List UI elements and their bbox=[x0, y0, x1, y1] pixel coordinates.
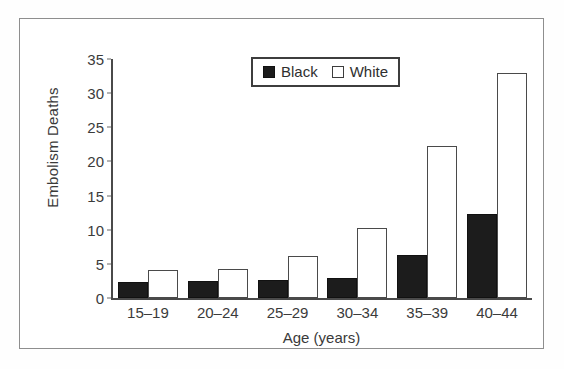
y-tick-mark bbox=[107, 263, 111, 264]
y-tick-label: 20 bbox=[87, 153, 104, 170]
y-tick-label: 35 bbox=[87, 51, 104, 68]
legend-entry-black: Black bbox=[263, 63, 318, 80]
bar-group bbox=[253, 59, 323, 298]
y-tick-mark bbox=[107, 59, 111, 60]
bar-white-40-44 bbox=[497, 73, 527, 298]
bar-black-25-29 bbox=[258, 280, 288, 298]
legend-label-black: Black bbox=[281, 63, 318, 80]
x-tick-label: 20–24 bbox=[183, 304, 253, 321]
chart-legend: Black White bbox=[251, 57, 400, 87]
y-tick-label: 0 bbox=[96, 290, 104, 307]
x-axis-title: Age (years) bbox=[111, 329, 532, 346]
bar-group bbox=[322, 59, 392, 298]
y-tick-label: 10 bbox=[87, 221, 104, 238]
x-axis-tick-labels: 15–1920–2425–2930–3435–3940–44 bbox=[113, 304, 532, 321]
y-tick-mark bbox=[107, 298, 111, 299]
bar-black-30-34 bbox=[327, 278, 357, 298]
legend-swatch-white-icon bbox=[332, 66, 344, 78]
y-tick-label: 30 bbox=[87, 85, 104, 102]
legend-swatch-black-icon bbox=[263, 66, 275, 78]
x-tick-label: 15–19 bbox=[113, 304, 183, 321]
bar-black-35-39 bbox=[397, 255, 427, 298]
y-tick-mark bbox=[107, 127, 111, 128]
figure-border: Embolism Deaths 05101520253035 15–1920–2… bbox=[19, 18, 544, 349]
y-tick-mark bbox=[107, 195, 111, 196]
legend-label-white: White bbox=[350, 63, 388, 80]
y-tick-label: 25 bbox=[87, 119, 104, 136]
x-tick-label: 40–44 bbox=[462, 304, 532, 321]
y-tick-mark bbox=[107, 161, 111, 162]
y-axis-title: Embolism Deaths bbox=[44, 78, 61, 218]
bar-white-15-19 bbox=[148, 270, 178, 298]
bar-black-15-19 bbox=[118, 282, 148, 298]
y-tick-mark bbox=[107, 229, 111, 230]
y-tick-label: 5 bbox=[96, 255, 104, 272]
bar-black-20-24 bbox=[188, 281, 218, 298]
x-tick-label: 35–39 bbox=[392, 304, 462, 321]
x-axis-line bbox=[111, 298, 532, 300]
bar-group bbox=[183, 59, 253, 298]
bar-group bbox=[113, 59, 183, 298]
bar-black-40-44 bbox=[467, 214, 497, 298]
bar-group bbox=[462, 59, 532, 298]
x-tick-label: 25–29 bbox=[253, 304, 323, 321]
plot-area: 05101520253035 15–1920–2425–2930–3435–39… bbox=[111, 59, 532, 300]
bar-white-25-29 bbox=[288, 256, 318, 298]
bar-white-35-39 bbox=[427, 146, 457, 298]
figure-container: Embolism Deaths 05101520253035 15–1920–2… bbox=[0, 0, 564, 369]
bar-white-20-24 bbox=[218, 269, 248, 298]
y-tick-label: 15 bbox=[87, 187, 104, 204]
bar-groups bbox=[113, 59, 532, 298]
x-tick-label: 30–34 bbox=[322, 304, 392, 321]
bar-white-30-34 bbox=[357, 228, 387, 298]
y-tick-mark bbox=[107, 93, 111, 94]
bar-group bbox=[392, 59, 462, 298]
legend-entry-white: White bbox=[332, 63, 388, 80]
